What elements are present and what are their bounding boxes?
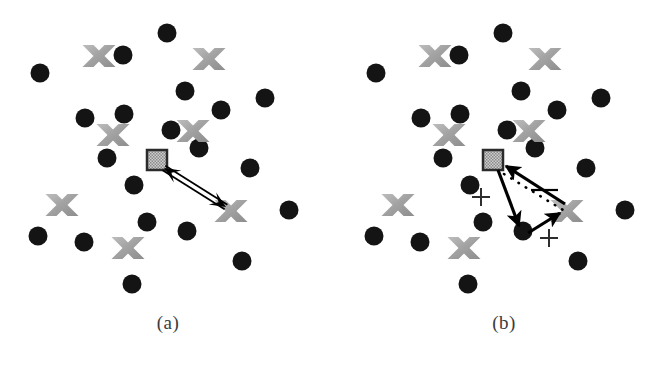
data-point-dot: [569, 252, 588, 271]
data-point-dot: [31, 64, 50, 83]
square-to-dot: [498, 170, 519, 226]
data-point-dot: [592, 89, 611, 108]
data-point-dot: [280, 201, 299, 220]
panel-a-plot: [0, 0, 336, 310]
data-point-dot: [256, 89, 275, 108]
data-point-dot: [162, 121, 181, 140]
figure-container: (a): [0, 0, 672, 374]
data-point-dot: [412, 109, 431, 128]
data-point-cross: [112, 237, 145, 259]
square-to-x-dotted: [504, 174, 563, 210]
data-point-cross: [46, 194, 79, 216]
data-point-dot: [114, 46, 133, 65]
query-square-marker: [147, 150, 167, 170]
data-point-cross: [529, 48, 562, 70]
data-point-dot: [241, 159, 260, 178]
dot-to-x: [528, 213, 560, 233]
data-point-dot: [616, 201, 635, 220]
data-point-dot: [450, 46, 469, 65]
data-point-dot: [29, 227, 48, 246]
data-point-dot: [75, 233, 94, 252]
data-point-cross: [419, 45, 452, 67]
data-point-dot: [548, 101, 567, 120]
panel-a-caption: (a): [0, 312, 336, 334]
data-point-cross: [551, 200, 584, 222]
plus-right: [540, 229, 558, 247]
data-point-dot: [365, 227, 384, 246]
data-point-dot: [512, 82, 531, 101]
data-point-dot: [115, 105, 134, 124]
data-point-dot: [474, 213, 493, 232]
panel-b-arrows: [498, 166, 565, 233]
data-point-cross: [433, 124, 466, 146]
panel-a-square-marker: [147, 150, 167, 170]
data-point-cross: [83, 45, 116, 67]
data-point-dot: [434, 149, 453, 168]
panel-a: (a): [0, 0, 336, 374]
query-square-marker: [483, 150, 503, 170]
data-point-dot: [212, 101, 231, 120]
data-point-dot: [451, 105, 470, 124]
data-point-dot: [494, 24, 513, 43]
data-point-dot: [76, 109, 95, 128]
panel-b-dotted-lines: [504, 174, 563, 210]
panel-b-square-marker: [483, 150, 503, 170]
data-point-dot: [176, 82, 195, 101]
data-point-dot: [459, 275, 478, 294]
data-point-dot: [577, 159, 596, 178]
data-point-cross: [97, 124, 130, 146]
panel-a-arrows: [163, 166, 228, 209]
data-point-dot: [498, 121, 517, 140]
data-point-dot: [461, 176, 480, 195]
data-point-dot: [125, 176, 144, 195]
data-point-dot: [138, 213, 157, 232]
data-point-cross: [382, 194, 415, 216]
panel-b-caption: (b): [336, 312, 672, 334]
panel-b: (b): [336, 0, 672, 374]
data-point-dot: [411, 233, 430, 252]
data-point-dot: [233, 252, 252, 271]
data-point-cross: [448, 237, 481, 259]
panel-b-plot: [336, 0, 672, 310]
data-point-dot: [98, 149, 117, 168]
data-point-cross: [513, 120, 546, 142]
square-to-x-bidirectional: [163, 166, 228, 209]
data-point-dot: [367, 64, 386, 83]
data-point-cross: [193, 48, 226, 70]
x-to-square: [506, 166, 565, 204]
data-point-dot: [158, 24, 177, 43]
data-point-dot: [178, 222, 197, 241]
data-point-dot: [123, 275, 142, 294]
data-point-cross: [177, 120, 210, 142]
